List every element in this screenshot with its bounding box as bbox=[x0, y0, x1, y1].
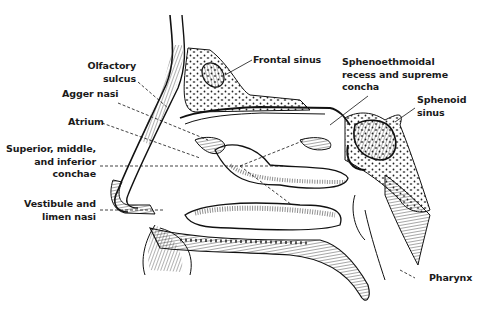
torus-tubarius bbox=[353, 195, 385, 280]
label-sphenoethmoidal: Sphenoethmoidal recess and supreme conch… bbox=[342, 56, 448, 94]
label-sphenoid-sinus: Sphenoid sinus bbox=[417, 94, 466, 119]
label-olfactory-sulcus: Olfactory sulcus bbox=[60, 60, 136, 85]
label-frontal-sinus: Frontal sinus bbox=[253, 54, 321, 67]
label-vestibule: Vestibule and limen nasi bbox=[16, 198, 96, 223]
label-agger-nasi: Agger nasi bbox=[62, 88, 118, 101]
nasal-bone bbox=[111, 15, 185, 214]
label-conchae: Superior, middle, and inferior conchae bbox=[6, 143, 96, 181]
label-pharynx: Pharynx bbox=[429, 272, 472, 285]
palate bbox=[150, 228, 369, 300]
superior-concha bbox=[300, 138, 331, 150]
conchae bbox=[185, 137, 348, 230]
label-atrium: Atrium bbox=[68, 116, 104, 129]
agger-nasi-mound bbox=[195, 137, 225, 153]
